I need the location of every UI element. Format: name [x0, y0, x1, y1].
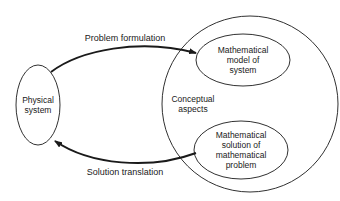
- conceptual-aspects-label: Conceptual aspects: [166, 94, 220, 114]
- physical-system-line2: system: [16, 105, 60, 115]
- math-model-label: Mathematical model of system: [208, 45, 278, 75]
- physical-system-line1: Physical: [16, 95, 60, 105]
- solution-translation-label: Solution translation: [80, 167, 170, 177]
- physical-system-label: Physical system: [16, 95, 60, 115]
- math-solution-line1: Mathematical: [206, 130, 276, 140]
- problem-formulation-label: Problem formulation: [80, 33, 170, 43]
- math-model-line2: model of: [208, 55, 278, 65]
- math-model-line3: system: [208, 65, 278, 75]
- math-solution-line3: mathematical: [206, 150, 276, 160]
- math-solution-line4: problem: [206, 160, 276, 170]
- conceptual-aspects-line2: aspects: [166, 104, 220, 114]
- conceptual-aspects-line1: Conceptual: [166, 94, 220, 104]
- math-model-line1: Mathematical: [208, 45, 278, 55]
- math-solution-label: Mathematical solution of mathematical pr…: [206, 130, 276, 170]
- math-solution-line2: solution of: [206, 140, 276, 150]
- solution-translation-arrow: [55, 141, 196, 163]
